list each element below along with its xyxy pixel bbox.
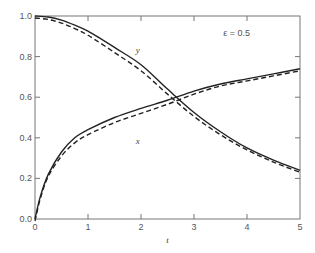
y-tick-label: 1.0 <box>19 11 32 21</box>
y-tick-label: 0.0 <box>19 214 32 224</box>
curve-y-approx- <box>35 18 300 172</box>
epsilon-annotation: ε = 0.5 <box>223 28 250 38</box>
y-tick-label: 0.8 <box>19 52 32 62</box>
x-tick-label: 2 <box>138 222 143 232</box>
curves <box>35 16 300 221</box>
x-tick-label: 4 <box>244 222 249 232</box>
curve-y-exact- <box>35 16 300 170</box>
axes <box>35 16 300 219</box>
curve-label-x: x <box>135 136 140 146</box>
x-tick-label: 5 <box>297 222 302 232</box>
plot-frame <box>35 16 300 219</box>
y-tick-label: 0.4 <box>19 133 32 143</box>
line-chart: 0123450.00.20.40.60.81.0tε = 0.5yx <box>0 0 315 253</box>
y-tick-label: 0.6 <box>19 92 32 102</box>
x-tick-label: 0 <box>32 222 37 232</box>
x-tick-label: 3 <box>191 222 196 232</box>
y-tick-label: 0.2 <box>19 173 32 183</box>
labels: 0123450.00.20.40.60.81.0tε = 0.5yx <box>19 11 302 245</box>
x-axis-label: t <box>166 235 169 245</box>
x-tick-label: 1 <box>85 222 90 232</box>
curve-label-y: y <box>135 45 140 55</box>
curve-x-exact- <box>35 69 300 219</box>
